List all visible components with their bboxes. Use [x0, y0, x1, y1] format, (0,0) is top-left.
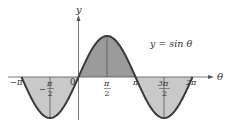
sine-graph-svg: y θ y = sin θ −π − π 2 0 π 2 π 3π 2 2π — [0, 0, 229, 128]
tick-label-zero: 0 — [70, 77, 75, 87]
tick-label-neg-pi-half-den: 2 — [48, 89, 53, 98]
tick-label-three-pi-half-num: 3π — [158, 79, 169, 88]
y-axis-label: y — [75, 4, 82, 15]
tick-label-neg-pi: −π — [10, 77, 23, 87]
equation-label: y = sin θ — [149, 38, 192, 49]
tick-label-neg-pi-half-sign: − — [39, 84, 46, 94]
tick-label-neg-pi-half-num: π — [46, 79, 53, 88]
tick-label-pi-half-den: 2 — [105, 89, 110, 98]
tick-label-pi: π — [132, 78, 139, 87]
tick-label-two-pi: 2π — [185, 78, 197, 87]
x-axis-label: θ — [217, 71, 223, 82]
y-axis-arrow-icon — [77, 15, 81, 21]
tick-label-three-pi-half-den: 2 — [162, 89, 167, 98]
x-axis-arrow-icon — [208, 75, 214, 79]
tick-label-pi-half-num: π — [103, 79, 110, 88]
sine-graph: y θ y = sin θ −π − π 2 0 π 2 π 3π 2 2π — [0, 0, 229, 128]
